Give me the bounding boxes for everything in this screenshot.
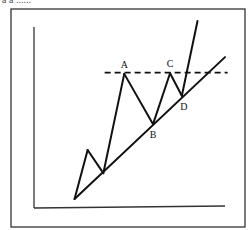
price-segment (170, 73, 182, 96)
price-segment (103, 74, 124, 173)
support-trendline (75, 57, 225, 199)
point-label-a: A (121, 59, 129, 70)
x-axis (34, 206, 225, 208)
outer-frame (11, 9, 245, 227)
price-segment (124, 74, 153, 124)
price-segment (88, 150, 104, 173)
point-label-b: B (150, 129, 157, 140)
point-label-d: D (180, 101, 187, 112)
point-label-c: C (167, 58, 174, 69)
ascending-triangle-diagram: ABCD (0, 0, 252, 230)
